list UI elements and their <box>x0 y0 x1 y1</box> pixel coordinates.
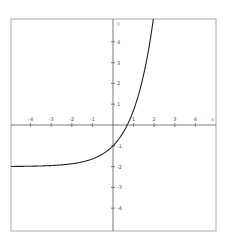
y-tick-label: 3 <box>117 60 120 66</box>
y-tick-label: -3 <box>117 184 122 190</box>
x-tick-label: -2 <box>69 116 74 122</box>
x-tick-label: -4 <box>28 116 33 122</box>
y-axis-label: y <box>117 20 120 27</box>
x-tick-label: -3 <box>49 116 54 122</box>
x-tick-label: -1 <box>90 116 95 122</box>
x-tick-label: 3 <box>173 116 176 122</box>
y-tick-label: 4 <box>117 39 120 45</box>
y-tick-label: 1 <box>117 101 120 107</box>
x-tick-label: 4 <box>194 116 197 122</box>
y-tick-label: -2 <box>117 164 122 170</box>
y-tick-label: -1 <box>117 143 122 149</box>
y-tick-label: 2 <box>117 80 120 86</box>
function-plot: -4-3-2-11234 4321-1-2-3-4 x y <box>0 0 227 234</box>
x-axis-label: x <box>211 116 214 122</box>
y-tick-label: -4 <box>117 205 122 211</box>
x-tick-label: 1 <box>132 116 135 122</box>
x-tick-label: 2 <box>153 116 156 122</box>
